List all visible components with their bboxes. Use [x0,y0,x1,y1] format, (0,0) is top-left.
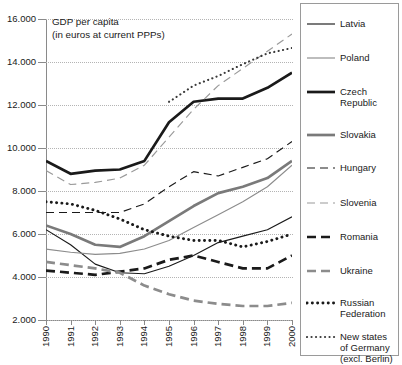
legend-label: Romania [340,230,378,242]
legend-label: Ukraine [340,264,373,276]
legend-item-slovenia[interactable]: Slovenia [301,196,400,210]
x-axis-label: 1993 [115,326,125,358]
gridline [46,234,293,235]
legend-swatch-icon [306,196,336,210]
x-axis-label: 1995 [164,326,174,358]
x-axis-label: 1991 [66,326,76,358]
x-axis-label: 1999 [262,326,272,358]
x-axis-tick [243,320,244,325]
legend-label: Russian Federation [340,296,385,319]
gridline [46,62,293,63]
x-axis-tick [95,320,96,325]
legend-swatch-icon [306,296,336,310]
legend-item-latvia[interactable]: Latvia [301,17,400,31]
x-axis-label: 2000 [287,326,297,358]
y-axis-label: 4.000 [2,272,36,282]
y-axis-label: 6.000 [2,229,36,239]
legend-label: Slovenia [340,196,376,208]
legend-swatch-icon [306,161,336,175]
legend-swatch-icon [306,330,336,344]
y-axis-tick [38,277,46,278]
gridline [46,148,293,149]
x-axis-tick [218,320,219,325]
chart-title: GDP per capita (in euros at current PPPs… [52,16,165,41]
x-axis-tick [120,320,121,325]
y-axis-tick [38,62,46,63]
legend-item-romania[interactable]: Romania [301,230,400,244]
x-axis-label: 1992 [90,326,100,358]
y-axis-line [46,19,47,320]
legend-label: Poland [340,51,370,63]
y-axis-label: 14.000 [2,57,36,67]
x-axis-label: 1998 [238,326,248,358]
plot-area [46,19,292,320]
x-axis-label: 1994 [139,326,149,358]
y-axis-tick [38,191,46,192]
legend-swatch-icon [306,17,336,31]
x-axis-tick [194,320,195,325]
y-axis-label: 2.000 [2,315,36,325]
legend-swatch-icon [306,85,336,99]
legend-swatch-icon [306,128,336,142]
legend-item-czech[interactable]: Czech Republic [301,85,400,108]
x-axis-tick [46,320,47,325]
x-axis-tick [71,320,72,325]
x-axis-label: 1996 [189,326,199,358]
legend-item-slovakia[interactable]: Slovakia [301,128,400,142]
y-axis-label: 12.000 [2,100,36,110]
legend-swatch-icon [306,230,336,244]
legend-swatch-icon [306,264,336,278]
x-axis-label: 1997 [213,326,223,358]
x-axis-tick [169,320,170,325]
legend-label: New states of Germany (excl. Berlin) [340,330,393,365]
legend: LatviaPolandCzech RepublicSlovakiaHungar… [300,3,399,356]
y-axis-tick [38,320,46,321]
legend-label: Slovakia [340,128,376,140]
y-axis-tick [38,148,46,149]
legend-swatch-icon [306,51,336,65]
x-axis-tick [267,320,268,325]
y-axis-tick [38,234,46,235]
legend-label: Latvia [340,17,365,29]
legend-label: Czech Republic [340,85,377,108]
x-axis-tick [292,320,293,325]
x-axis-label: 1990 [41,326,51,358]
legend-item-new-states[interactable]: New states of Germany (excl. Berlin) [301,330,400,365]
y-axis-label: 16.000 [2,14,36,24]
gridline [46,191,293,192]
gridline [46,105,293,106]
y-axis-tick [38,105,46,106]
legend-label: Hungary [340,161,376,173]
legend-item-poland[interactable]: Poland [301,51,400,65]
legend-item-ukraine[interactable]: Ukraine [301,264,400,278]
legend-item-hungary[interactable]: Hungary [301,161,400,175]
x-axis-tick [144,320,145,325]
y-axis-tick [38,19,46,20]
legend-item-russian[interactable]: Russian Federation [301,296,400,319]
y-axis-label: 8.000 [2,186,36,196]
y-axis-label: 10.000 [2,143,36,153]
gridline [46,277,293,278]
